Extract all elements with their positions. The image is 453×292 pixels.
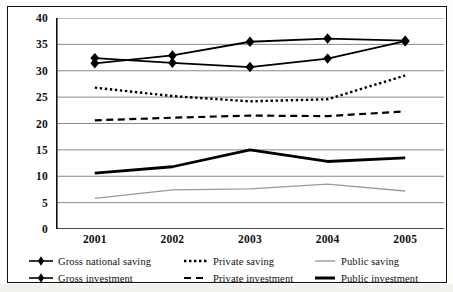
y-tick-label: 25 [36,91,48,103]
series-line-public-investment [95,150,405,173]
legend-label: Public investment [341,273,418,284]
chart-screenshot: 40 35 30 25 20 15 10 5 0 2001 2002 2003 … [0,0,453,292]
thick-black-line-key-icon [311,272,337,284]
legend-label: Private investment [213,273,293,284]
plot-area [56,18,444,229]
y-tick-label: 15 [36,144,48,156]
diamond-solid-line-key-icon [28,272,54,284]
dotted-line-key-icon [183,255,209,267]
y-tick-label: 20 [36,118,48,130]
dashed-line-key-icon [183,272,209,284]
y-tick-label: 10 [36,170,48,182]
legend-item-gross-national-saving[interactable]: Gross national saving [28,254,151,268]
series-line-public-saving [95,184,405,198]
data-point-marker [246,37,255,47]
legend-label: Public saving [341,256,399,267]
data-point-marker [323,33,332,43]
y-tick-label: 30 [36,65,48,77]
x-tick-label: 2001 [83,233,107,245]
x-tick-label: 2004 [316,233,340,245]
y-axis-tick-labels: 40 35 30 25 20 15 10 5 0 [16,18,52,229]
y-tick-label: 5 [42,197,48,209]
diamond-solid-line-key-icon [28,255,54,267]
data-point-marker [323,53,332,63]
legend-item-public-saving[interactable]: Public saving [311,254,399,268]
chart-frame: 40 35 30 25 20 15 10 5 0 2001 2002 2003 … [7,6,447,283]
legend-item-private-saving[interactable]: Private saving [183,254,274,268]
y-tick-label: 35 [36,38,48,50]
legend-item-public-investment[interactable]: Public investment [311,271,418,285]
legend-item-private-investment[interactable]: Private investment [183,271,293,285]
y-tick-label: 0 [42,223,48,235]
legend-label: Private saving [213,256,274,267]
legend-label: Gross national saving [58,256,151,267]
y-tick-label: 40 [36,12,48,24]
x-tick-label: 2002 [160,233,184,245]
thin-grey-line-key-icon [311,255,337,267]
x-tick-label: 2005 [393,233,417,245]
x-tick-label: 2003 [238,233,262,245]
legend-item-gross-investment[interactable]: Gross investment [28,271,133,285]
legend-label: Gross investment [58,273,133,284]
chart-legend: Gross national saving Private saving Pub… [28,254,438,286]
x-axis-tick-labels: 2001 2002 2003 2004 2005 [56,233,444,251]
data-point-marker [168,50,177,60]
data-point-marker [90,58,99,68]
series-line-private-investment [95,111,405,120]
plot-canvas [56,18,444,229]
